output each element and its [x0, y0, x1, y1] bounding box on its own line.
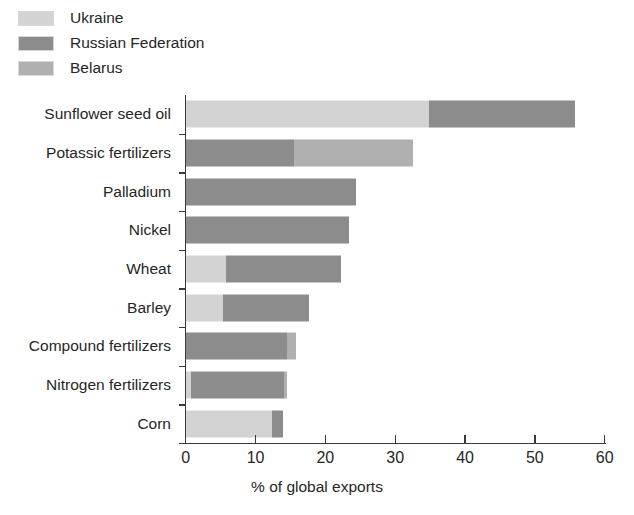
legend-swatch-russian-federation: [18, 36, 54, 51]
x-axis-tick: [464, 435, 465, 443]
bar-row: [186, 178, 356, 205]
category-label: Barley: [127, 299, 171, 317]
bar-row: [186, 140, 413, 167]
bar-row: [186, 256, 341, 283]
category-axis-labels: Sunflower seed oilPotassic fertilizersPa…: [0, 95, 179, 443]
bar-segment[interactable]: [191, 372, 285, 399]
bar-segment[interactable]: [186, 333, 287, 360]
y-axis-tick: [179, 172, 186, 173]
category-label: Sunflower seed oil: [44, 105, 171, 123]
bars-container: [186, 95, 605, 443]
category-label: Wheat: [126, 260, 171, 278]
bar-segment[interactable]: [186, 217, 349, 244]
x-axis-tick-label: 10: [247, 449, 265, 467]
bar-segment[interactable]: [186, 178, 356, 205]
x-axis-tick: [185, 435, 186, 443]
x-axis-tick-label: 60: [596, 449, 614, 467]
category-label: Nickel: [129, 221, 171, 239]
bar-row: [186, 294, 309, 321]
category-label: Potassic fertilizers: [46, 144, 171, 162]
category-label: Corn: [137, 415, 171, 433]
legend-item-russian-federation: Russian Federation: [18, 31, 318, 55]
legend-swatch-belarus: [18, 61, 54, 76]
x-axis-tick: [395, 435, 396, 443]
legend-label-belarus: Belarus: [70, 60, 123, 76]
y-axis-tick: [179, 366, 186, 367]
bar-segment[interactable]: [294, 140, 413, 167]
x-axis-title: % of global exports: [0, 478, 634, 496]
bar-segment[interactable]: [284, 372, 287, 399]
bar-row: [186, 101, 575, 128]
category-label: Palladium: [103, 183, 171, 201]
bar-segment[interactable]: [223, 294, 309, 321]
y-axis-tick: [179, 443, 186, 444]
x-axis-tick-label: 20: [316, 449, 334, 467]
x-axis-tick: [534, 435, 535, 443]
bar-segment[interactable]: [287, 333, 296, 360]
y-axis-tick: [179, 288, 186, 289]
legend-item-belarus: Belarus: [18, 56, 318, 80]
plot-area: Sunflower seed oilPotassic fertilizersPa…: [0, 95, 634, 515]
bar-row: [186, 217, 349, 244]
x-axis-tick-label: 0: [181, 449, 190, 467]
legend-swatch-ukraine: [18, 11, 54, 26]
legend-item-ukraine: Ukraine: [18, 6, 318, 30]
x-axis-tick: [604, 435, 605, 443]
x-axis-tick-label: 40: [456, 449, 474, 467]
bar-row: [186, 410, 283, 437]
legend-label-russian-federation: Russian Federation: [70, 35, 204, 51]
x-axis-line: [185, 443, 606, 444]
y-axis-tick: [179, 250, 186, 251]
bar-row: [186, 372, 287, 399]
bar-segment[interactable]: [186, 140, 294, 167]
bar-segment[interactable]: [226, 256, 341, 283]
legend-label-ukraine: Ukraine: [70, 10, 123, 26]
bar-segment[interactable]: [186, 410, 272, 437]
y-axis-tick: [179, 404, 186, 405]
bar-segment[interactable]: [272, 410, 283, 437]
y-axis-tick: [179, 327, 186, 328]
bar-segment[interactable]: [429, 101, 575, 128]
x-axis-tick: [255, 435, 256, 443]
category-label: Nitrogen fertilizers: [46, 376, 171, 394]
y-axis-tick: [179, 134, 186, 135]
chart-legend: Ukraine Russian Federation Belarus: [18, 6, 318, 81]
x-axis-tick-label: 50: [526, 449, 544, 467]
bar-segment[interactable]: [186, 101, 429, 128]
bar-segment[interactable]: [186, 294, 223, 321]
stacked-bar-chart: Ukraine Russian Federation Belarus Sunfl…: [0, 0, 634, 515]
bar-segment[interactable]: [186, 256, 226, 283]
category-label: Compound fertilizers: [29, 337, 171, 355]
x-axis-tick-label: 30: [386, 449, 404, 467]
y-axis-tick: [179, 211, 186, 212]
x-axis-tick: [325, 435, 326, 443]
bar-row: [186, 333, 296, 360]
